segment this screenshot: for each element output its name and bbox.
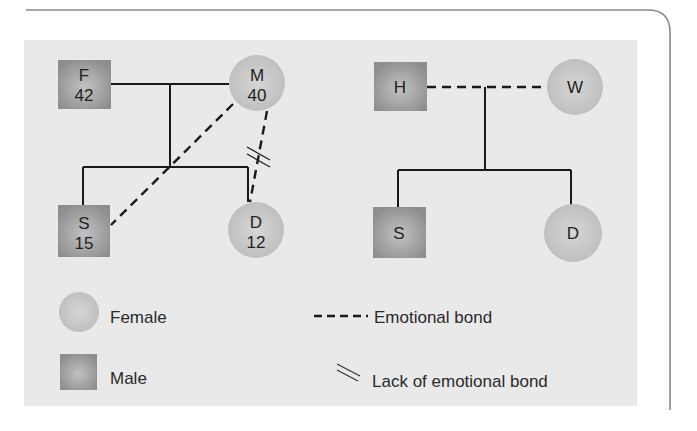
left-family: F 42 M 40 S 15 D 12 [58,55,285,258]
mother-label: M [250,66,264,85]
mother-age: 40 [248,86,267,105]
husband-label: H [394,78,406,97]
double-slash-icon [337,364,360,381]
legend-male-label: Male [110,369,147,388]
legend-emotional-bond: Emotional bond [314,308,492,327]
son-node: S 15 [58,205,110,257]
genogram-diagram: F 42 M 40 S 15 D 12 [0,0,697,431]
legend-female: Female [59,292,167,332]
father-node: F 42 [58,60,111,109]
male-symbol-icon [60,354,97,390]
father-label: F [79,66,89,85]
legend-male: Male [60,354,147,390]
husband-node: H [374,62,427,111]
son-label: S [393,224,404,243]
daughter-label: D [250,213,262,232]
wife-label: W [567,78,583,97]
right-family: H W S D [373,59,603,262]
wife-node: W [547,59,603,115]
figure-frame: F 42 M 40 S 15 D 12 [0,0,697,431]
son-age: 15 [75,234,94,253]
mother-node: M 40 [229,55,285,111]
legend: Female Male Emotional bond Lack of emoti… [59,292,548,391]
legend-lack-of-bond: Lack of emotional bond [337,364,548,391]
son-label: S [78,214,89,233]
father-age: 42 [75,86,94,105]
son-node: S [373,207,426,258]
female-symbol-icon [59,292,99,332]
daughter-node: D [544,204,602,262]
legend-lack-of-bond-label: Lack of emotional bond [372,372,548,391]
daughter-label: D [567,224,579,243]
daughter-node: D 12 [228,202,284,258]
emotional-bond-mother-son [111,104,233,225]
daughter-age: 12 [247,233,266,252]
legend-female-label: Female [110,308,167,327]
legend-emotional-bond-label: Emotional bond [374,308,492,327]
